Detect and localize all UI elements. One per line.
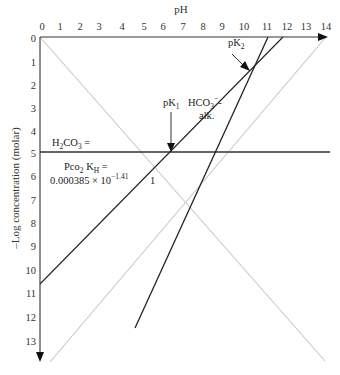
h-plus-line bbox=[40, 37, 325, 361]
alk-label: alk. bbox=[199, 110, 214, 121]
y-tick-labels: 0 1 2 3 4 5 6 7 8 9 10 11 12 13 bbox=[26, 33, 37, 347]
x-tick: 14 bbox=[321, 21, 332, 32]
y-tick: 2 bbox=[31, 80, 36, 91]
x-tick: 3 bbox=[96, 21, 101, 32]
x-tick: 2 bbox=[77, 21, 82, 32]
pk1-label: pK1 bbox=[163, 97, 180, 111]
y-tick: 8 bbox=[31, 218, 36, 229]
y-tick: 0 bbox=[31, 33, 36, 44]
hco3-alk-label: HCO3−- bbox=[188, 94, 222, 111]
pk2-arrow-icon bbox=[240, 61, 250, 71]
x-tick: 6 bbox=[160, 21, 165, 32]
y-tick: 3 bbox=[31, 103, 36, 114]
y-tick: 9 bbox=[31, 241, 36, 252]
y-tick: 13 bbox=[26, 336, 37, 347]
pk2-arrow-line bbox=[232, 54, 244, 66]
x-tick: 10 bbox=[239, 21, 250, 32]
y-axis-arrow-icon bbox=[36, 352, 44, 362]
x-tick: 7 bbox=[180, 21, 185, 32]
pco2-value-label: 0.000385 × 10−1.41 bbox=[50, 172, 129, 186]
x-tick: 5 bbox=[141, 21, 146, 32]
y-tick: 11 bbox=[26, 288, 36, 299]
x-axis-title: pH bbox=[174, 3, 188, 15]
y-tick: 1 bbox=[31, 57, 36, 68]
y-tick: 10 bbox=[26, 265, 37, 276]
y-tick: 12 bbox=[26, 312, 37, 323]
x-tick-labels: 0 1 2 3 4 5 6 7 8 9 10 11 12 13 14 bbox=[39, 21, 332, 32]
y-tick: 6 bbox=[31, 171, 36, 182]
x-tick: 11 bbox=[262, 21, 272, 32]
x-tick: 4 bbox=[119, 21, 125, 32]
x-tick: 9 bbox=[219, 21, 224, 32]
y-tick: 4 bbox=[31, 126, 37, 137]
slope-label: 1 bbox=[150, 175, 155, 186]
x-tick: 8 bbox=[200, 21, 205, 32]
pco2-kh-label: Pco2 KH = bbox=[64, 161, 108, 175]
y-tick: 7 bbox=[31, 195, 36, 206]
y-tick: 5 bbox=[31, 148, 36, 159]
x-tick: 0 bbox=[39, 21, 44, 32]
x-tick: 12 bbox=[282, 21, 293, 32]
oh-minus-line bbox=[50, 37, 326, 362]
y-axis-title: –Log concentration (molar) bbox=[9, 127, 22, 250]
h2co3-label: H2CO3 = bbox=[52, 137, 90, 151]
pk2-label: pK2 bbox=[228, 37, 245, 51]
x-tick: 1 bbox=[57, 21, 62, 32]
carbonate-speciation-chart: pH 0 1 2 3 4 5 6 7 8 9 10 11 12 13 14 0 … bbox=[0, 0, 340, 375]
x-tick: 13 bbox=[301, 21, 312, 32]
